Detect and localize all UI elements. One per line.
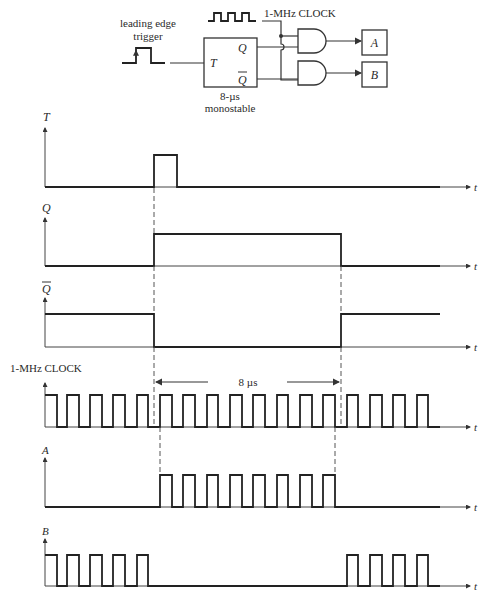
signal-q: Q t xyxy=(42,201,478,272)
t-axis-label: t xyxy=(474,580,478,592)
signal-qbar-label: Q xyxy=(42,282,51,296)
signal-b-label: B xyxy=(42,525,49,537)
signal-clock: 1-MHz CLOCK t 8 µs xyxy=(10,362,478,433)
output-b-label: B xyxy=(371,68,379,82)
circuit-schematic: leading edge trigger T Q Q 8-µs monostab… xyxy=(120,7,387,114)
and-gate-b xyxy=(298,61,326,85)
signal-q-label: Q xyxy=(42,201,51,215)
t-axis-label: t xyxy=(474,341,478,353)
signal-b-waveform xyxy=(45,555,440,586)
clock-wire xyxy=(262,21,298,80)
signal-clock-label: 1-MHz CLOCK xyxy=(10,362,82,374)
duration-label: 8 µs xyxy=(239,376,258,388)
signal-t-waveform xyxy=(45,155,440,187)
clock-label: 1-MHz CLOCK xyxy=(264,7,336,19)
signal-q-waveform xyxy=(45,234,440,266)
output-a-label: A xyxy=(370,36,379,50)
t-axis-label: t xyxy=(474,421,478,433)
signal-b: B t xyxy=(42,525,478,592)
guide-lines xyxy=(154,188,341,475)
timing-diagram-figure: leading edge trigger T Q Q 8-µs monostab… xyxy=(0,0,486,603)
t-axis-label: t xyxy=(474,181,478,193)
trigger-label-2: trigger xyxy=(133,30,163,42)
monostable-output-qbar: Q xyxy=(238,73,247,87)
and-gate-a xyxy=(298,29,326,53)
t-axis-label: t xyxy=(474,260,478,272)
trigger-label: leading edge xyxy=(120,17,176,29)
clock-symbol-icon xyxy=(208,13,256,21)
signal-t-label: T xyxy=(43,110,51,124)
monostable-caption-2: monostable xyxy=(205,102,256,114)
trigger-pulse-icon xyxy=(122,48,165,63)
signal-a: A t xyxy=(41,444,478,513)
signal-qbar-waveform xyxy=(45,314,440,347)
signal-a-waveform xyxy=(45,475,440,507)
signal-clock-waveform xyxy=(45,395,440,427)
monostable-output-q: Q xyxy=(238,41,247,55)
monostable-caption: 8-µs xyxy=(220,90,240,102)
signal-qbar: Q t xyxy=(42,282,478,353)
signal-a-label: A xyxy=(41,444,49,456)
signal-t: T t xyxy=(43,110,478,193)
t-axis-label: t xyxy=(474,501,478,513)
